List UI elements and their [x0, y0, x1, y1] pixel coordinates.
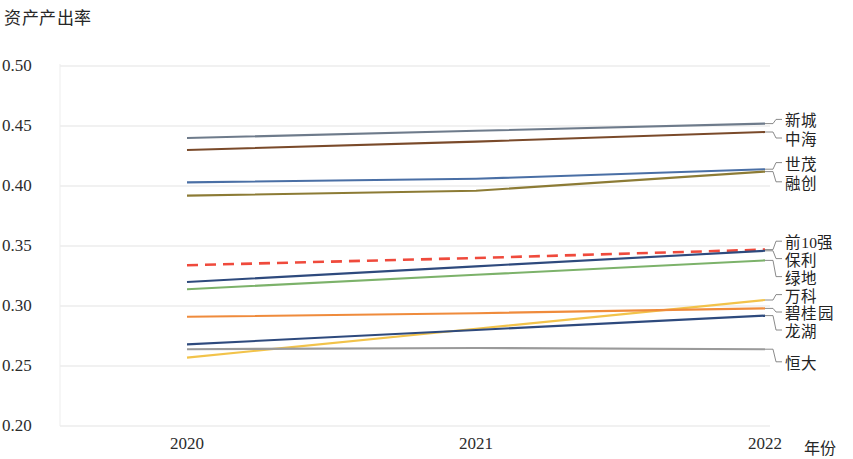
series-line [187, 316, 765, 345]
series-leader-line [765, 119, 782, 123]
series-label-融创: 融创 [785, 171, 818, 193]
series-line [187, 251, 765, 282]
series-leader-line [765, 163, 782, 170]
series-leader-line [765, 251, 782, 259]
series-line [187, 260, 765, 289]
series-line [187, 348, 765, 349]
series-leader-line [765, 260, 782, 276]
series-line [187, 250, 765, 266]
series-line [187, 132, 765, 150]
series-leader-line [765, 316, 782, 330]
series-label-恒大: 恒大 [785, 351, 818, 373]
series-leader-line [765, 349, 782, 362]
series-leader-line [765, 308, 782, 312]
series-leader-line [765, 295, 782, 300]
series-leader-line [765, 241, 782, 249]
series-label-中海: 中海 [785, 127, 818, 149]
series-leader-line [765, 172, 782, 182]
series-label-龙湖: 龙湖 [785, 319, 818, 341]
series-line [187, 308, 765, 316]
series-line [187, 169, 765, 182]
series-leader-line [765, 132, 782, 138]
series-line [187, 172, 765, 196]
